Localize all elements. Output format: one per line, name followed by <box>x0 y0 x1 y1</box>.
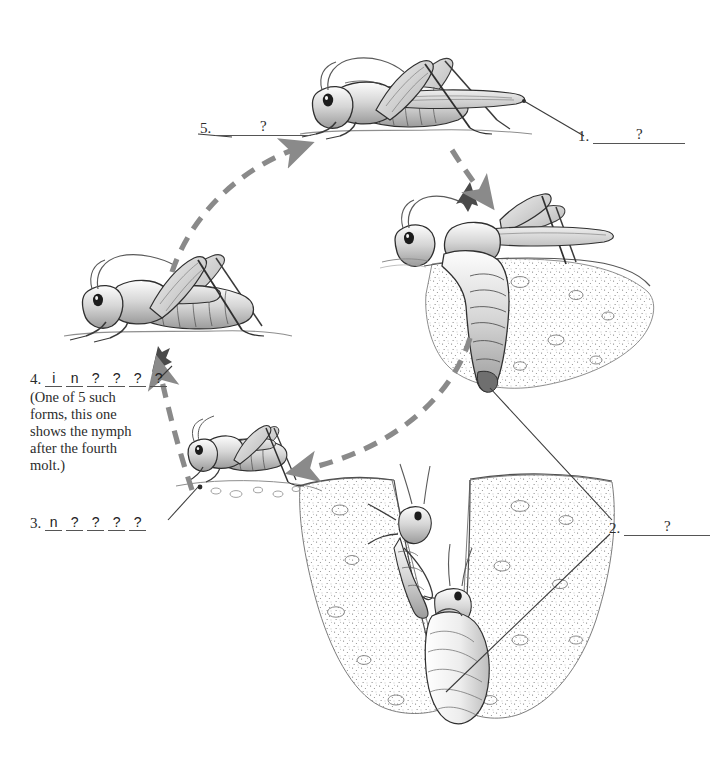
label-3-number: 3. <box>30 516 41 531</box>
label-4-number: 4. <box>30 372 41 387</box>
late-nymph-to-adult-arrow <box>172 148 298 272</box>
label-3-slot-3[interactable]: ? <box>87 514 104 531</box>
label-4-slot-4[interactable]: ? <box>108 370 125 387</box>
label-4-slot-5[interactable]: ? <box>129 370 146 387</box>
label-5: 5. ? <box>200 118 311 136</box>
label-3-slot-4[interactable]: ? <box>108 514 125 531</box>
stage-late-instar-nymph <box>64 255 292 372</box>
label-4-slot-6[interactable]: ? <box>150 370 167 387</box>
stage-underground-egg-pod <box>298 464 614 724</box>
life-cycle-diagram: 5. ? 1. ? 2. ? 4. i n ? <box>0 0 718 777</box>
stage-egg-laying-adult <box>380 182 654 392</box>
leader-to-label-3 <box>168 487 198 520</box>
label-1-blank[interactable]: ? <box>593 126 685 144</box>
label-3-slot-5[interactable]: ? <box>129 514 146 531</box>
label-4-blanks[interactable]: i n ? ? ? ? <box>45 370 167 387</box>
label-4-note: (One of 5 such forms, this one shows the… <box>30 389 167 474</box>
label-2: 2. ? <box>609 518 710 536</box>
label-1: 1. ? <box>578 126 685 144</box>
label-4: 4. i n ? ? ? ? (One of 5 such forms, thi… <box>30 370 167 474</box>
label-4-slot-3[interactable]: ? <box>87 370 104 387</box>
label-2-number: 2. <box>609 521 620 536</box>
label-3-slot-1[interactable]: n <box>45 514 62 531</box>
label-1-question-mark: ? <box>636 127 643 142</box>
label-4-slot-2[interactable]: n <box>66 370 83 387</box>
label-3-slot-2[interactable]: ? <box>66 514 83 531</box>
label-3-blanks[interactable]: n ? ? ? ? <box>45 514 146 531</box>
label-5-blank[interactable]: ? <box>215 118 311 136</box>
label-2-blank[interactable]: ? <box>624 518 710 536</box>
stage-adult-grasshopper <box>300 58 532 139</box>
label-3: 3. n ? ? ? ? <box>30 514 146 531</box>
label-4-slot-1[interactable]: i <box>45 370 62 387</box>
label-2-question-mark: ? <box>664 519 671 534</box>
leader-to-label-1 <box>524 101 584 136</box>
label-1-number: 1. <box>578 129 589 144</box>
label-5-question-mark: ? <box>260 119 267 134</box>
label-5-number: 5. <box>200 121 211 136</box>
